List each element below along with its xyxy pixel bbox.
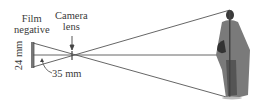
statue-icon xyxy=(216,10,250,100)
ray-diagram xyxy=(0,0,269,108)
light-rays xyxy=(33,10,230,98)
